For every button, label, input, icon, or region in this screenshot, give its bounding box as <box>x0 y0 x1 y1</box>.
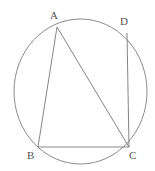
geometry-figure: A D B C <box>0 0 155 171</box>
geometry-canvas <box>0 0 155 171</box>
segment-AB <box>38 27 57 147</box>
vertex-label-a: A <box>50 10 58 21</box>
segment-DC <box>127 33 129 147</box>
vertex-label-b: B <box>27 150 34 161</box>
segment-AC <box>57 27 129 147</box>
vertex-label-d: D <box>120 16 128 27</box>
vertex-label-c: C <box>129 150 136 161</box>
